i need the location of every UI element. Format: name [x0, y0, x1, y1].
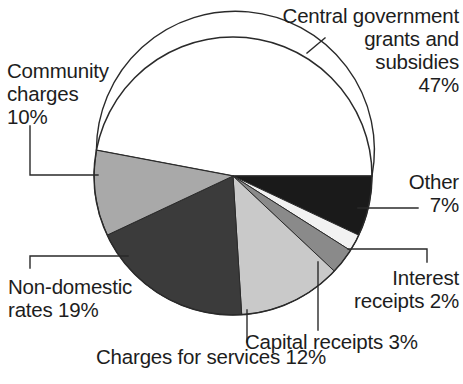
slice-label-community-charges: Community charges 10% — [7, 59, 167, 128]
leader-line-interest-receipts — [348, 249, 427, 262]
pie-chart-figure: Central government grants and subsidies … — [0, 0, 463, 384]
leader-line-non-domestic-rates — [30, 256, 128, 268]
slice-label-other: Other 7% — [339, 170, 459, 216]
slice-label-interest-receipts: Interest receipts 2% — [299, 266, 459, 312]
slice-label-non-domestic-rates: Non-domestic rates 19% — [8, 275, 183, 321]
leader-line-community-charges — [30, 126, 98, 175]
slice-label-central-government-grants: Central government grants and subsidies … — [249, 4, 459, 97]
slice-label-capital-receipts: Capital receipts 3% — [245, 330, 460, 353]
